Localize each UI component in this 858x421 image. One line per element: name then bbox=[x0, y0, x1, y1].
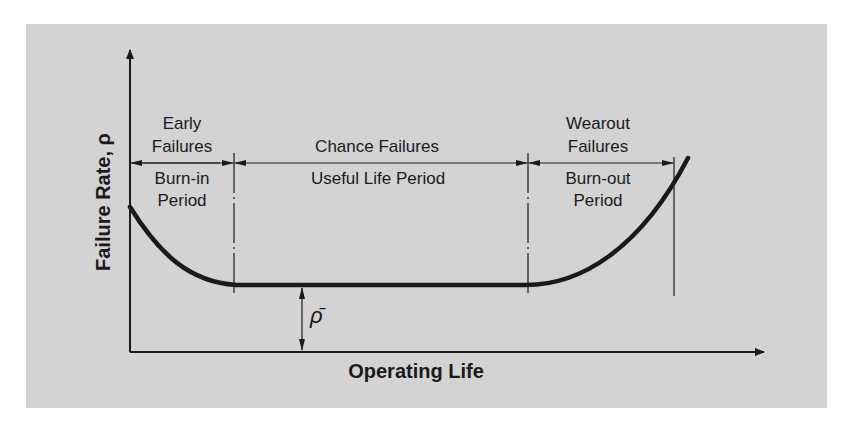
region-early-title-1: Early bbox=[163, 114, 202, 133]
region-wearout-period-1: Burn-out bbox=[565, 169, 630, 188]
region-early-title-2: Failures bbox=[152, 137, 212, 156]
region-chance-period: Useful Life Period bbox=[311, 169, 445, 188]
mean-rate-label: ρ̄ bbox=[309, 303, 327, 328]
y-axis-label: Failure Rate, ρ bbox=[92, 133, 114, 271]
region-early-period-2: Period bbox=[157, 191, 206, 210]
region-wearout-title-1: Wearout bbox=[566, 114, 630, 133]
x-axis-label: Operating Life bbox=[348, 360, 484, 382]
bathtub-curve-diagram: ρ̄ Early Failures Burn-in Period Chance … bbox=[0, 0, 858, 421]
region-wearout-period-2: Period bbox=[573, 191, 622, 210]
region-wearout-title-2: Failures bbox=[568, 137, 628, 156]
region-chance-title: Chance Failures bbox=[315, 137, 439, 156]
region-early-period-1: Burn-in bbox=[155, 169, 210, 188]
